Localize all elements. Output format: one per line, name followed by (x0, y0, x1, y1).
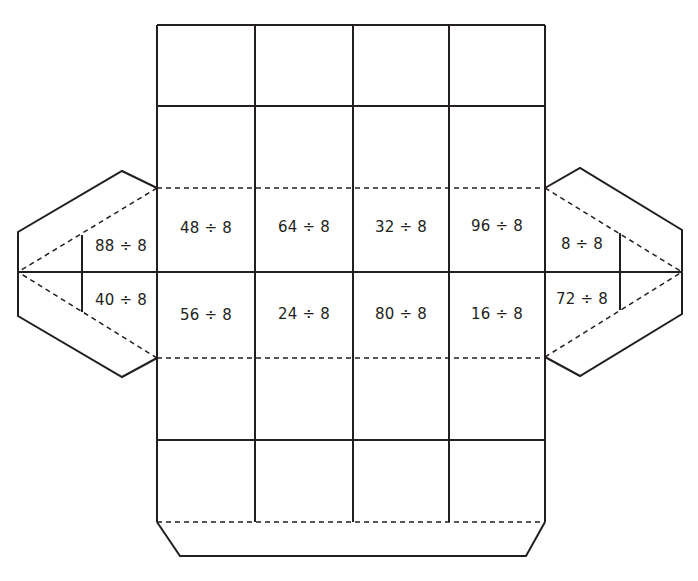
problem-cell: 16 ÷ 8 (471, 305, 523, 323)
right-flap-top-problem: 8 ÷ 8 (561, 235, 603, 253)
left-flap-top-problem: 88 ÷ 8 (95, 237, 147, 255)
bottom-flap (157, 522, 545, 556)
left-flap-diagonal-bottom (18, 272, 157, 358)
problem-cell: 32 ÷ 8 (375, 218, 427, 236)
problem-cell: 80 ÷ 8 (375, 305, 427, 323)
right-flap-diagonal-bottom (545, 272, 682, 357)
right-flap-diagonal-top (545, 188, 682, 272)
problem-cell: 24 ÷ 8 (278, 305, 330, 323)
problem-cell: 64 ÷ 8 (278, 218, 330, 236)
left-flap-outline (18, 171, 157, 377)
right-flap-bottom-problem: 72 ÷ 8 (556, 290, 608, 308)
left-flap-diagonal-top (18, 188, 157, 272)
left-flap-bottom-problem: 40 ÷ 8 (95, 291, 147, 309)
problem-cell: 96 ÷ 8 (471, 217, 523, 235)
problem-cell: 48 ÷ 8 (180, 219, 232, 237)
problem-cell: 56 ÷ 8 (180, 306, 232, 324)
